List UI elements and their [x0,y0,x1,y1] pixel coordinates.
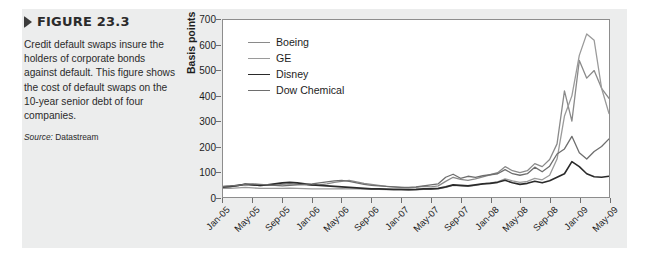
y-tick-mark [216,19,221,20]
y-tick-mark [216,121,221,122]
y-tick-label: 200 [190,141,216,152]
legend-item-boeing[interactable]: Boeing [248,34,344,50]
y-tick-mark [216,70,221,71]
chart-area: Basis points 0100200300400500600700 Jan-… [186,12,626,252]
figure-title: FIGURE 23.3 [37,14,130,29]
y-tick-mark [216,172,221,173]
x-tick-mark [371,198,372,203]
x-tick-mark [580,198,581,203]
x-tick-mark [282,198,283,203]
y-tick-label: 500 [190,65,216,76]
legend-label: GE [276,52,291,64]
x-tick-mark [610,198,611,203]
legend-swatch [248,58,270,59]
figure-source: Source: Datastream [24,132,176,142]
figure-title-row: FIGURE 23.3 [24,14,176,29]
x-tick-mark [312,198,313,203]
x-tick-mark [461,198,462,203]
x-tick-mark [431,198,432,203]
figure-caption-text: Credit default swaps insure the holders … [24,38,176,123]
figure-caption-block: FIGURE 23.3 Credit default swaps insure … [24,14,176,142]
figure-source-value: Datastream [55,132,98,142]
y-tick-mark [216,198,221,199]
y-tick-label: 700 [190,14,216,25]
y-tick-label: 300 [190,116,216,127]
triangle-right-icon [24,16,32,28]
y-tick-label: 0 [190,193,216,204]
y-tick-mark [216,45,221,46]
legend-item-dow-chemical[interactable]: Dow Chemical [248,82,344,98]
x-tick-mark [401,198,402,203]
y-tick-label: 600 [190,39,216,50]
x-tick-mark [550,198,551,203]
y-tick-label: 100 [190,167,216,178]
x-axis-tick-labels: Jan-05May-05Sep-05Jan-06May-06Sep-06Jan-… [222,204,610,259]
x-tick-mark [252,198,253,203]
y-tick-mark [216,147,221,148]
chart-legend: BoeingGEDisneyDow Chemical [248,34,344,98]
x-tick-mark [222,198,223,203]
legend-label: Disney [276,68,308,80]
legend-item-ge[interactable]: GE [248,50,344,66]
x-tick-mark [520,198,521,203]
legend-swatch [248,74,270,75]
legend-item-disney[interactable]: Disney [248,66,344,82]
x-tick-mark [341,198,342,203]
legend-label: Boeing [276,36,309,48]
y-tick-label: 400 [190,90,216,101]
legend-swatch [248,42,270,43]
figure-source-label: Source: [24,132,53,142]
legend-label: Dow Chemical [276,84,344,96]
x-tick-mark [491,198,492,203]
legend-swatch [248,90,270,91]
y-tick-mark [216,96,221,97]
